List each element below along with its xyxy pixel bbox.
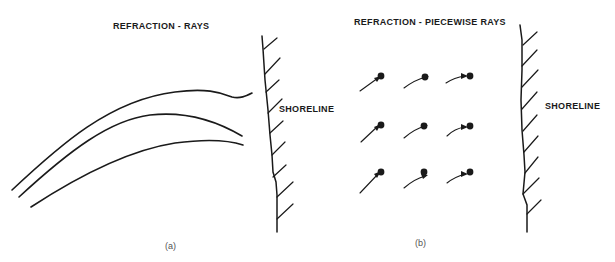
ray-3 [31,141,243,207]
diagram-canvas [0,0,615,262]
shoreline-a-hatches [264,38,293,219]
shoreline-b-hatches [522,32,541,214]
shoreline-a [262,36,277,232]
piecewise-ray-heads [374,73,473,179]
